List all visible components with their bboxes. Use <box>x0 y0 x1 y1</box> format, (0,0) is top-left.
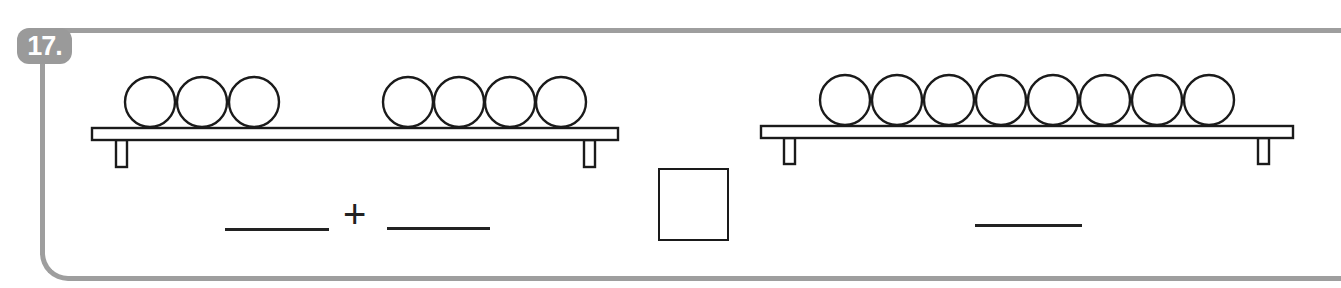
illustration <box>0 0 1341 288</box>
left-shelf <box>92 128 618 167</box>
addend-blank-left[interactable] <box>225 228 329 231</box>
ball-icon <box>976 75 1026 125</box>
addend-blank-right[interactable] <box>387 227 490 230</box>
total-blank[interactable] <box>975 224 1082 227</box>
comparison-answer-box[interactable] <box>658 168 729 241</box>
shelf-board <box>761 126 1293 138</box>
shelf-leg-right <box>584 140 595 167</box>
shelf-leg-left <box>784 138 795 164</box>
ball-icon <box>536 77 586 127</box>
ball-icon <box>125 77 175 127</box>
ball-icon <box>1080 75 1130 125</box>
right-shelf <box>761 126 1293 164</box>
ball-icon <box>229 77 279 127</box>
ball-icon <box>872 75 922 125</box>
ball-icon <box>177 77 227 127</box>
ball-group-b <box>383 77 586 127</box>
plus-sign: + <box>343 194 366 234</box>
shelf-board <box>92 128 618 140</box>
ball-icon <box>1028 75 1078 125</box>
shelf-leg-left <box>116 140 127 167</box>
ball-icon <box>924 75 974 125</box>
shelf-leg-right <box>1258 138 1269 164</box>
ball-icon <box>820 75 870 125</box>
ball-icon <box>383 77 433 127</box>
ball-group-a <box>125 77 279 127</box>
ball-icon <box>1184 75 1234 125</box>
ball-icon <box>434 77 484 127</box>
ball-icon <box>485 77 535 127</box>
ball-group-c <box>820 75 1234 125</box>
ball-icon <box>1132 75 1182 125</box>
